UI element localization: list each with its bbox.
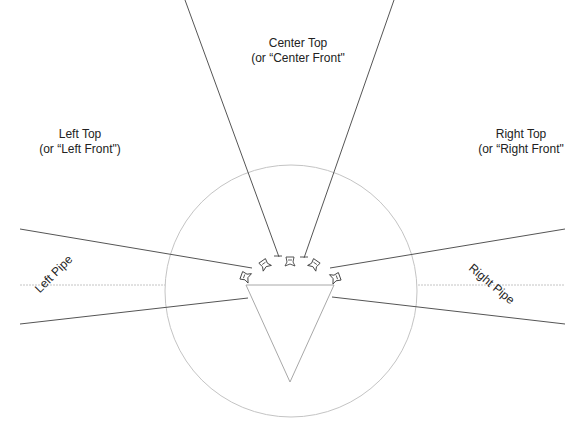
left-top-label-line1: Left Top [20,127,140,142]
right-top-label-line1: Right Top [466,127,576,142]
rear-cone [246,285,334,382]
right-pipe-upper-boundary [330,229,565,268]
left-top-label: Left Top (or “Left Front") [20,127,140,157]
mic-right-pipe-icon [330,272,342,284]
right-pipe-lower-boundary [332,297,565,324]
mic-left-pipe-icon [240,271,252,283]
right-top-label: Right Top (or “Right Front" [466,127,576,157]
mic-left-top-icon [258,258,271,271]
mic-center-top-icon [285,257,295,266]
mic-right-top-icon [308,258,321,271]
left-pipe-lower-boundary [20,298,248,324]
left-top-label-line2: (or “Left Front") [20,142,140,157]
center-top-label-line1: Center Top [238,36,358,51]
center-top-label: Center Top (or “Center Front" [238,36,358,66]
right-top-label-line2: (or “Right Front" [466,142,576,157]
center-top-label-line2: (or “Center Front" [238,51,358,66]
